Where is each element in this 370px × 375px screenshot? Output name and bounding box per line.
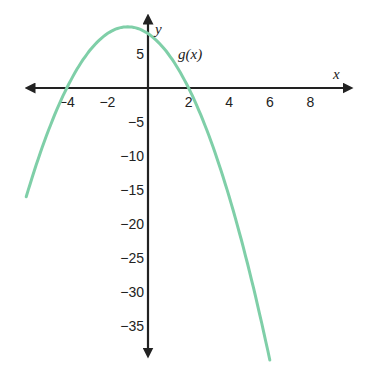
- x-tick-label: 8: [307, 94, 315, 110]
- x-tick-label: −2: [99, 94, 115, 110]
- y-tick-label: −5: [128, 114, 144, 130]
- y-axis-label: y: [153, 21, 162, 37]
- x-tick-label: 4: [225, 94, 233, 110]
- y-tick-label: −25: [120, 250, 144, 266]
- tick-labels: −4−224685−5−10−15−20−25−30−35: [59, 46, 315, 334]
- y-tick-label: −10: [120, 148, 144, 164]
- y-tick-label: −30: [120, 284, 144, 300]
- y-tick-label: −20: [120, 216, 144, 232]
- x-tick-label: 6: [266, 94, 274, 110]
- y-tick-label: −15: [120, 182, 144, 198]
- x-axis-label: x: [332, 66, 340, 82]
- y-tick-label: −35: [120, 318, 144, 334]
- function-label: g(x): [178, 46, 202, 63]
- y-tick-label: 5: [136, 46, 144, 62]
- parabola-chart: −4−224685−5−10−15−20−25−30−35 g(x) x y: [0, 0, 370, 375]
